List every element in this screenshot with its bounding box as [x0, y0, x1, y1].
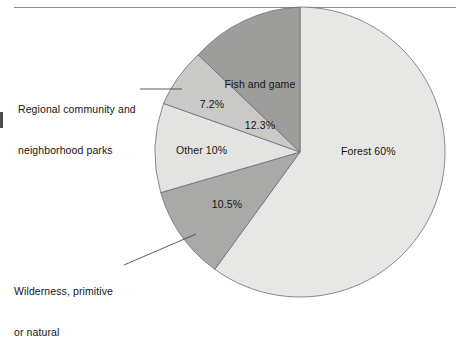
callout-label-wilderness: Wilderness, primitive or natural: [14, 258, 134, 340]
callout-label-regional-line2: neighborhood parks: [18, 144, 148, 158]
slice-label-wilderness-percent: 10.5%: [196, 198, 258, 212]
slice-label-other: Other 10%: [176, 144, 266, 158]
leader-line-wilderness: [124, 234, 196, 265]
slice-label-forest: Forest 60%: [341, 145, 441, 159]
callout-label-regional: Regional community and neighborhood park…: [18, 76, 148, 184]
callout-label-wilderness-line2: or natural: [14, 326, 134, 340]
slice-label-regional-percent: 7.2%: [182, 98, 242, 112]
callout-label-regional-line1: Regional community and: [18, 103, 148, 117]
slice-label-fish-and-game-line1: Fish and game: [204, 78, 316, 92]
slice-label-fish-and-game-line2: 12.3%: [204, 119, 316, 133]
callout-label-wilderness-line1: Wilderness, primitive: [14, 285, 134, 299]
